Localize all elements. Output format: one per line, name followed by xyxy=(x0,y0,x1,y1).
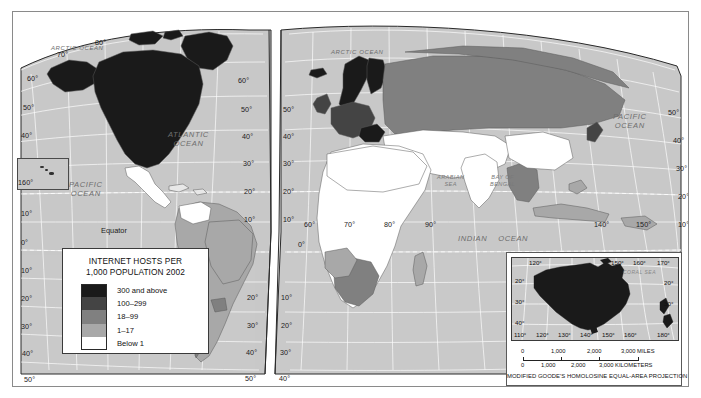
legend-item-2: 18–99 xyxy=(81,310,208,323)
aus-lat-right-0: 20° xyxy=(664,279,673,286)
legend-swatch-4 xyxy=(81,337,107,350)
scale-miles-bar xyxy=(523,357,639,361)
aus-lon-top-0: 120° xyxy=(529,259,542,266)
arabian-sea-label: ARABIAN SEA xyxy=(437,174,464,188)
aus-lon-bot-6: 180° xyxy=(657,331,670,338)
pacific-east-line2: OCEAN xyxy=(615,121,645,130)
lat-label-midA-10: 40° xyxy=(246,348,257,357)
pacific-west-line2: OCEAN xyxy=(71,189,101,198)
legend-title: INTERNET HOSTS PER 1,000 POPULATION 2002 xyxy=(63,256,208,278)
indian-ocean-label: INDIAN OCEAN xyxy=(458,234,528,243)
lat-label-midB-4: 10° xyxy=(283,215,294,224)
legend-label-3: 1–17 xyxy=(117,326,134,335)
scale-miles-label-1: 1,000 xyxy=(551,348,566,354)
scale-bars: 0 1,000 2,000 3,000 MILES 0 1,000 2,000 … xyxy=(521,348,671,376)
legend-label-1: 100–299 xyxy=(117,299,147,308)
aus-lon-top-1: 150° xyxy=(611,259,624,266)
aus-lat-left-2: 40° xyxy=(515,319,524,326)
lon-label-4: 140° xyxy=(594,220,609,229)
scale-miles-label-0: 0 xyxy=(521,348,524,354)
pacific-ocean-east-label: PACIFIC OCEAN xyxy=(613,112,647,130)
north-africa xyxy=(327,146,427,192)
aus-lat-left-0: 20° xyxy=(515,277,524,284)
lat-label-left-5: 10° xyxy=(21,209,32,218)
lat-label-midA-6: 0° xyxy=(298,240,305,249)
aus-lon-bot-4: 150° xyxy=(602,331,615,338)
aus-lon-bot-0: 110° xyxy=(514,331,526,338)
indian-ocean-line2: OCEAN xyxy=(498,234,528,243)
lat-label-midA-0: 60° xyxy=(238,76,249,85)
lon-label-5: 150° xyxy=(636,220,651,229)
lat-label-left-6: 0° xyxy=(21,238,28,247)
lat-label-midB-6: 10° xyxy=(281,293,292,302)
lat-label-midA-5: 10° xyxy=(244,215,255,224)
pacific-ocean-west-label: PACIFIC OCEAN xyxy=(69,180,103,198)
coral-sea-label: CORAL SEA xyxy=(623,269,656,275)
lat-label-midA-4: 20° xyxy=(244,187,255,196)
lat-label-midA-1: 50° xyxy=(241,105,252,114)
arctic-ocean-east-label: ARCTIC OCEAN xyxy=(331,48,384,57)
scale-miles-label-2: 2,000 xyxy=(587,348,602,354)
arabian-sea-line1: ARABIAN xyxy=(437,174,464,180)
scale-km-label-0: 0 xyxy=(521,362,524,368)
lon-label-3: 90° xyxy=(425,220,436,229)
lat-label-midB-1: 40° xyxy=(283,132,294,141)
legend-item-1: 100–299 xyxy=(81,297,208,310)
atlantic-ocean-line1: ATLANTIC xyxy=(168,130,209,139)
aus-lat-right-1: 30° xyxy=(664,300,673,307)
indian-ocean-line1: INDIAN xyxy=(458,234,487,243)
lat-label-right-3: 20° xyxy=(678,192,688,201)
scale-miles-label-3: 3,000 MILES xyxy=(621,348,655,354)
lat-label-right-4: 10° xyxy=(678,220,688,229)
lat-label-left-10: 40° xyxy=(22,349,33,358)
lat-label-midB-2: 30° xyxy=(283,159,294,168)
legend-item-4: Below 1 xyxy=(81,337,208,350)
legend-swatch-0 xyxy=(81,284,107,297)
lat-label-left-9: 30° xyxy=(21,322,32,331)
lat-label-midB-9: 40° xyxy=(279,374,290,383)
arctic-ocean-west-label: ARCTIC OCEAN xyxy=(51,44,104,53)
scale-miles-row: 0 1,000 2,000 3,000 MILES xyxy=(521,348,671,362)
lat-label-midA-11: 50° xyxy=(245,374,256,383)
lat-label-left-8: 20° xyxy=(21,294,32,303)
projection-note: MODIFIED GOODE'S HOMOLOSINE EQUAL-AREA P… xyxy=(507,373,683,379)
legend-title-line2: 1,000 POPULATION 2002 xyxy=(86,267,185,277)
pacific-west-line1: PACIFIC xyxy=(69,180,103,189)
lat-label-left-7: 10° xyxy=(21,266,32,275)
lat-label-midB-0: 50° xyxy=(283,105,294,114)
aus-lon-bot-3: 140° xyxy=(580,331,593,338)
hawaii-longitude-label: 160° xyxy=(18,178,33,187)
lat-label-left-3: 40° xyxy=(21,131,32,140)
legend-swatch-1 xyxy=(81,297,107,310)
lat-label-midA-9: 30° xyxy=(247,321,258,330)
lat-label-midB-7: 20° xyxy=(281,321,292,330)
scale-km-label-2: 2,000 xyxy=(571,362,586,368)
lat-label-left-11: 50° xyxy=(24,375,35,384)
scale-km-label-1: 1,000 xyxy=(541,362,556,368)
lat-label-right-1: 40° xyxy=(673,136,684,145)
bay-of-bengal-line1: BAY OF xyxy=(491,174,513,180)
scale-km-label-3: 3,000 KILOMETERS xyxy=(599,362,652,368)
pacific-east-line1: PACIFIC xyxy=(613,112,647,121)
legend-label-2: 18–99 xyxy=(117,312,138,321)
legend-item-0: 300 and above xyxy=(81,284,208,297)
atlantic-ocean-label: ATLANTIC OCEAN xyxy=(168,130,209,148)
legend-item-3: 1–17 xyxy=(81,324,208,337)
lat-label-midA-8: 20° xyxy=(247,293,258,302)
aus-lon-top-2: 160° xyxy=(633,259,646,266)
lat-label-right-0: 50° xyxy=(668,108,679,117)
legend-swatch-3 xyxy=(81,324,107,337)
lon-label-2: 80° xyxy=(384,220,395,229)
lat-label-midB-3: 20° xyxy=(283,187,294,196)
map-legend: INTERNET HOSTS PER 1,000 POPULATION 2002… xyxy=(62,248,209,354)
legend-swatch-2 xyxy=(81,310,107,323)
lat-label-right-2: 30° xyxy=(676,164,687,173)
lat-label-left-2: 50° xyxy=(23,103,34,112)
legend-label-4: Below 1 xyxy=(117,339,144,348)
lat-label-midA-2: 40° xyxy=(242,132,253,141)
lat-label-midA-3: 30° xyxy=(243,159,254,168)
lon-label-1: 70° xyxy=(344,220,355,229)
equator-label: Equator xyxy=(101,226,127,235)
lat-label-left-1: 60° xyxy=(27,74,38,83)
bay-of-bengal-label: BAY OF BENGAL xyxy=(490,174,515,188)
